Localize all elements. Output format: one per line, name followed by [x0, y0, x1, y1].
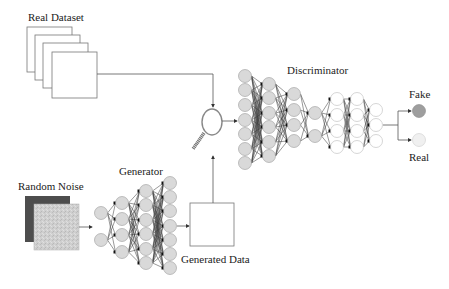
neuron-node: [116, 246, 129, 259]
neuron-node: [239, 157, 252, 170]
neuron-node: [164, 248, 177, 261]
neuron-node: [164, 205, 177, 218]
neuron-node: [263, 78, 276, 91]
neuron-node: [95, 207, 108, 220]
magnifying-glass-icon: [193, 109, 222, 149]
real-dataset-label: Real Dataset: [28, 11, 84, 23]
real-data-arrow: [97, 74, 213, 107]
fake-label: Fake: [409, 88, 431, 100]
neuron-node: [116, 213, 129, 226]
generated-data-label: Generated Data: [181, 253, 250, 265]
neuron-node: [140, 228, 153, 241]
random-noise-label: Random Noise: [18, 180, 84, 192]
neuron-node: [309, 130, 322, 143]
neuron-node: [288, 104, 301, 117]
random-noise: Random Noise: [18, 180, 84, 250]
neuron-node: [288, 135, 301, 148]
neuron-node: [331, 109, 344, 122]
neuron-node: [351, 109, 364, 122]
dataset-sheet: [52, 52, 97, 98]
generated-data-box: [190, 203, 234, 246]
neuron-node: [164, 262, 177, 275]
neuron-node: [164, 177, 177, 190]
neuron-node: [331, 93, 344, 106]
real-label: Real: [409, 151, 429, 163]
neuron-node: [263, 121, 276, 134]
gan-architecture-diagram: Real Dataset Random Noise Generator Gene…: [0, 0, 449, 289]
neuron-node: [331, 125, 344, 138]
neuron-node: [263, 107, 276, 120]
neuron-node: [239, 114, 252, 127]
generator-connections: [108, 182, 165, 270]
neuron-node: [164, 191, 177, 204]
neuron-node: [370, 119, 383, 132]
neuron-node: [351, 125, 364, 138]
neuron-node: [164, 234, 177, 247]
neuron-node: [288, 119, 301, 132]
neuron-node: [351, 141, 364, 154]
neuron-node: [239, 70, 252, 83]
neuron-node: [351, 93, 364, 106]
neuron-node: [370, 104, 383, 117]
neuron-node: [370, 135, 383, 148]
neuron-node: [140, 214, 153, 227]
neuron-node: [164, 220, 177, 233]
real-dataset: Real Dataset: [27, 11, 97, 98]
neuron-node: [288, 88, 301, 101]
neuron-node: [263, 150, 276, 163]
neuron-node: [239, 128, 252, 141]
generator-label: Generator: [119, 165, 163, 177]
neuron-node: [95, 234, 108, 247]
neuron-node: [309, 107, 322, 120]
neuron-node: [140, 257, 153, 270]
neuron-node: [140, 243, 153, 256]
neuron-node: [239, 84, 252, 97]
neuron-node: [239, 143, 252, 156]
neuron-node: [140, 199, 153, 212]
neuron-node: [263, 92, 276, 105]
neuron-node: [116, 229, 129, 242]
neuron-node: [331, 141, 344, 154]
neuron-node: [239, 99, 252, 112]
discriminator-label: Discriminator: [287, 64, 348, 76]
neuron-node: [263, 136, 276, 149]
neuron-node: [140, 185, 153, 198]
real-output-node: [413, 134, 426, 147]
noise-sample-light: [34, 204, 79, 250]
neuron-node: [116, 197, 129, 210]
output-branch: [383, 111, 411, 140]
fake-output-node: [413, 105, 426, 118]
